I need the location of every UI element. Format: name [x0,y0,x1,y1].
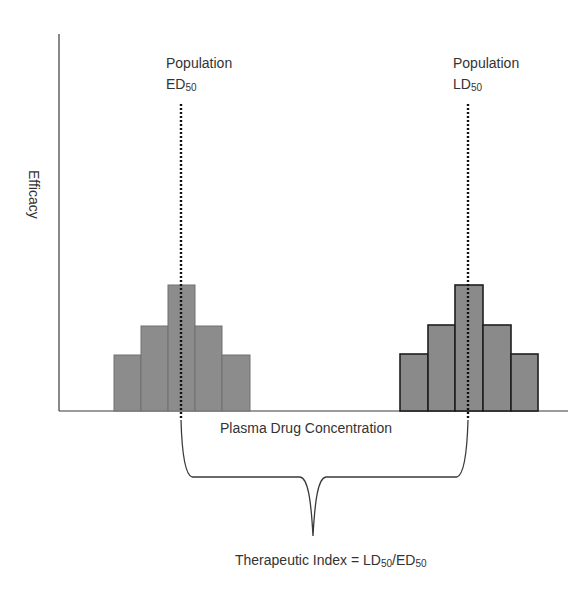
ed50-bar [141,326,168,411]
ed50-bar [222,355,250,411]
y-axis-label: Efficacy [26,170,42,219]
ld50-sub: 50 [471,82,482,93]
ti-denominator: ED [396,552,415,568]
ed50-bar [114,355,141,411]
ed50-annotation: Population ED50 [166,55,232,92]
y-axis-label-text: Efficacy [26,170,42,219]
ti-denominator-sub: 50 [415,558,426,569]
ed50-population-text: Population [166,55,232,71]
ld50-bar [400,354,428,411]
ed50-label: ED50 [166,76,232,92]
ld50-bar [483,325,511,411]
ld50-bar [511,354,538,411]
ld50-bar [428,325,455,411]
ld50-annotation: Population LD50 [453,55,519,92]
ld50-label: LD50 [453,76,519,92]
x-axis-label: Plasma Drug Concentration [220,420,392,436]
ld50-main: LD [453,76,471,92]
ti-numerator-sub: 50 [381,558,392,569]
ti-numerator: LD [363,552,381,568]
therapeutic-index-brace [181,420,468,536]
x-axis-label-text: Plasma Drug Concentration [220,420,392,436]
ed50-bar [195,326,222,411]
ld50-population-text: Population [453,55,519,71]
ed50-main: ED [166,76,185,92]
therapeutic-index-formula: Therapeutic Index = LD50/ED50 [235,552,427,568]
ed50-sub: 50 [185,82,196,93]
ti-prefix: Therapeutic Index = [235,552,363,568]
